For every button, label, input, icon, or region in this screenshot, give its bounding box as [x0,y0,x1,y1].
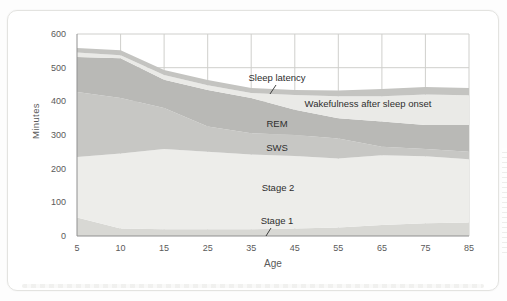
x-tick-label: 75 [420,243,430,253]
x-tick-label: 10 [116,243,126,253]
y-axis-title: Minutes [30,103,41,139]
y-tick-label: 300 [51,130,66,140]
x-axis-title: Age [77,258,469,269]
y-tick-label: 400 [51,96,66,106]
y-tick-label: 200 [51,164,66,174]
y-tick-label: 500 [51,63,66,73]
x-tick-label: 35 [246,243,256,253]
annotation-wakefulness-after-sleep-onset: Wakefulness after sleep onset [305,98,432,109]
x-tick-label: 5 [74,243,79,253]
x-tick-label: 15 [159,243,169,253]
x-tick-label: 25 [203,243,213,253]
y-tick-label: 100 [51,197,66,207]
annotation-rem: REM [266,118,287,129]
y-tick-label: 0 [61,231,66,241]
annotation-stage-1: Stage 1 [261,215,294,226]
annotation-stage-2: Stage 2 [262,182,295,193]
y-tick-label: 600 [51,29,66,39]
x-tick-label: 85 [464,243,474,253]
x-tick-label: 65 [377,243,387,253]
x-tick-label: 55 [333,243,343,253]
annotation-sleep-latency: Sleep latency [248,72,305,83]
y-tick-labels: 0100200300400500600 [51,29,66,241]
figure-scan: 01002003004005006005101525354555657585Sl… [0,0,507,301]
scan-artifact-right-edge [502,148,507,256]
annotation-sws: SWS [266,142,288,153]
x-tick-labels: 5101525354555657585 [74,243,474,253]
x-tick-label: 45 [290,243,300,253]
sleep-stages-by-age-chart: 01002003004005006005101525354555657585Sl… [0,0,507,301]
